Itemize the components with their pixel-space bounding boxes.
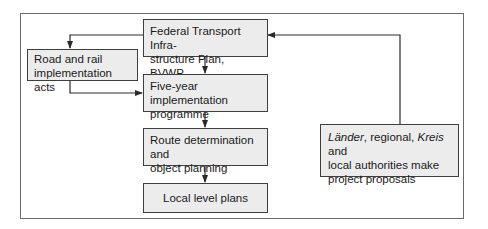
route-determination-box: Route determination and object planning [143,128,268,166]
laender-box-line3: project proposals [328,172,451,186]
federal-box-line1: Federal Transport Infra- [150,24,261,52]
route-box-line2: object planning [150,161,261,175]
laender-box-line1: Länder, regional, Kreis and [328,130,451,158]
local-box-label: Local level plans [163,191,248,205]
laender-proposals-box: Länder, regional, Kreis and local author… [320,124,459,177]
five-year-box-line2: programme [150,107,261,121]
kreis-italic-text: Kreis [418,131,444,143]
route-box-line1: Route determination and [150,133,261,161]
laender-box-line2: local authorities make [328,158,451,172]
local-level-plans-box: Local level plans [143,183,268,213]
road-rail-acts-box: Road and rail implementation acts [27,49,138,81]
five-year-programme-box: Five-year implementation programme [143,74,268,112]
road-box-line2: implementation acts [34,66,131,94]
road-box-line1: Road and rail [34,52,131,66]
federal-transport-plan-box: Federal Transport Infra- structure Plan,… [143,19,268,57]
five-year-box-line1: Five-year implementation [150,79,261,107]
laender-italic-text: Länder [328,131,364,143]
